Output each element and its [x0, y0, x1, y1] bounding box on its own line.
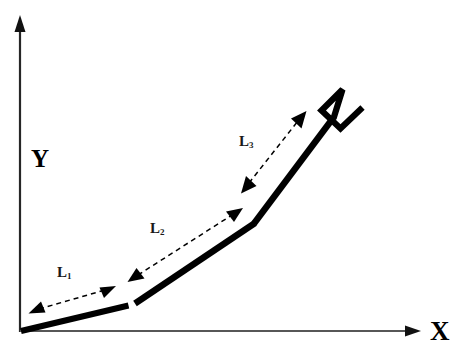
- diagram-canvas: Y X L1 L2 L3: [0, 0, 455, 352]
- segment-label-l2-subscript: 2: [160, 227, 165, 237]
- segment-label-l2: L2: [150, 221, 165, 236]
- segment-label-l3: L3: [239, 134, 254, 149]
- y-axis-arrowhead: [15, 15, 26, 32]
- l1-arrowhead-start: [29, 302, 46, 314]
- segment-label-l3-base: L: [239, 133, 249, 149]
- x-axis-label: X: [430, 318, 450, 345]
- l2-arrowhead-end: [226, 208, 243, 222]
- l1-arrowhead-end: [100, 286, 117, 298]
- axes-group: [15, 15, 422, 337]
- growth-curve-group: [21, 90, 363, 332]
- l3-arrowhead-start: [241, 176, 257, 194]
- x-axis-arrowhead: [405, 326, 421, 337]
- segment-label-l1: L1: [57, 265, 72, 280]
- segment-label-l3-subscript: 3: [249, 140, 254, 150]
- growth-curve-diagram: [0, 0, 455, 352]
- l1-arrow-line: [39, 290, 105, 309]
- l2-arrowhead-start: [128, 268, 145, 282]
- y-axis-label: Y: [31, 146, 49, 171]
- segment-label-l1-base: L: [57, 264, 67, 280]
- segment-label-l1-subscript: 1: [67, 271, 72, 281]
- segment-label-l2-base: L: [150, 220, 160, 236]
- curve-segment-upper: [254, 118, 334, 224]
